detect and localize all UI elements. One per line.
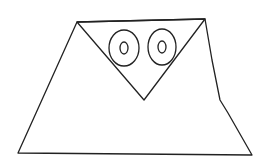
owl-face-triangle [77, 19, 205, 100]
owl-drawing [0, 0, 265, 168]
right-eye-pupil [158, 41, 166, 53]
left-eye-outer-ring [109, 30, 139, 66]
owl-body-trapezoid [18, 19, 252, 155]
left-eye-pupil [120, 42, 128, 54]
left-eye [109, 30, 139, 66]
right-eye-outer-ring [148, 29, 176, 65]
right-eye [148, 29, 176, 65]
